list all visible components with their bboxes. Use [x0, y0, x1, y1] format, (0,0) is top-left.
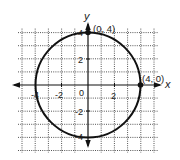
y-axis-up-arrow-icon	[85, 22, 90, 30]
x-axis-label: x	[164, 78, 171, 90]
y-axis-down-arrow-icon	[85, 140, 90, 148]
point-label-0-4: (0, 4)	[93, 23, 115, 34]
y-axis-label: y	[83, 10, 91, 22]
point-label-4-0: (4, 0)	[142, 73, 164, 84]
y-tick-label-2: 2	[78, 55, 83, 65]
x-tick-label-neg2: -2	[55, 90, 63, 100]
x-axis-left-arrow-icon	[12, 82, 20, 87]
circle-graph: y x (0, 4) (4, 0) -4 -2 0 2 4 2 -2 -4	[0, 0, 180, 160]
origin-label: 0	[79, 88, 84, 98]
y-tick-label-neg2: -2	[75, 107, 83, 117]
y-tick-label-4: 4	[78, 28, 83, 38]
x-tick-label-neg4: -4	[31, 90, 39, 100]
y-tick-label-neg4: -4	[75, 132, 83, 142]
coordinate-plane: y x (0, 4) (4, 0) -4 -2 0 2 4 2 -2 -4	[0, 0, 180, 160]
x-tick-label-2: 2	[111, 91, 116, 101]
point-0-4	[85, 30, 91, 36]
